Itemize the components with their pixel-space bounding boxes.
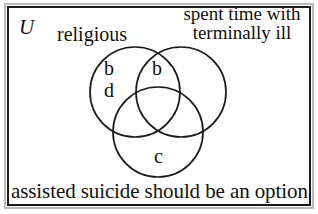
label-set-terminally-ill-line2: terminally ill: [178, 23, 306, 42]
universal-set-symbol: U: [19, 17, 35, 38]
label-set-religious: religious: [57, 24, 127, 44]
label-set-terminally-ill: spent time with terminally ill: [178, 4, 306, 43]
region-letter-left-only-b: b: [104, 58, 114, 78]
label-set-terminally-ill-line1: spent time with: [183, 3, 300, 24]
venn-diagram-figure: U religious spent time with terminally i…: [0, 0, 318, 214]
region-letter-left-only-d: d: [104, 80, 114, 100]
region-letter-bottom-only-c: c: [154, 146, 163, 166]
circle-terminally-ill: [136, 47, 226, 137]
label-set-assisted-suicide: assisted suicide should be an option: [11, 181, 308, 202]
region-letter-left-right-intersection-b: b: [152, 58, 162, 78]
